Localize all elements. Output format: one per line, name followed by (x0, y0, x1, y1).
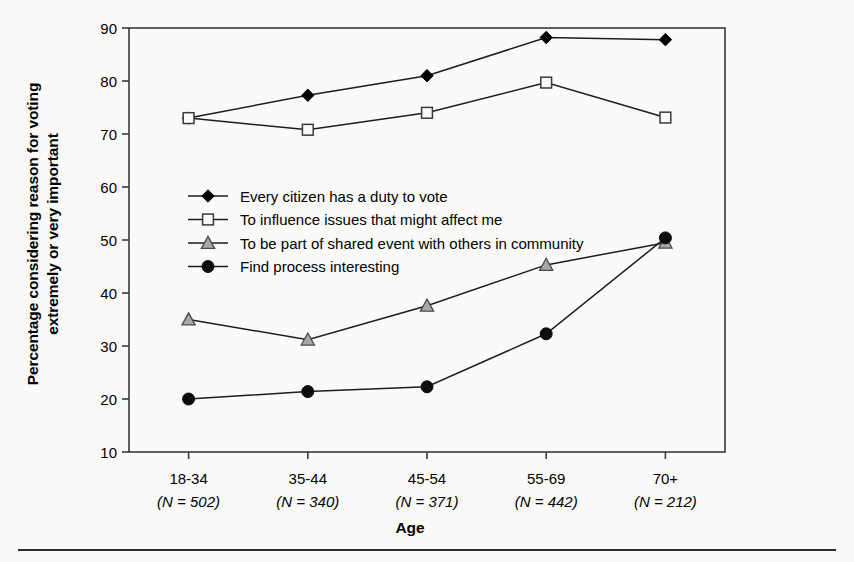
data-point-square (302, 124, 313, 135)
x-category-label: 45-54 (408, 470, 446, 487)
y-tick-label: 40 (100, 285, 117, 302)
x-axis-category-labels: 18-34(N = 502)35-44(N = 340)45-54(N = 37… (157, 470, 697, 510)
data-point-triangle (182, 313, 195, 325)
x-category-n-label: (N = 212) (634, 493, 697, 510)
x-axis-ticks (189, 452, 666, 459)
data-point-circle (421, 381, 433, 393)
y-tick-label: 20 (100, 391, 117, 408)
legend-label-1: To influence issues that might affect me (240, 211, 502, 228)
chart-legend: Every citizen has a duty to voteTo influ… (188, 188, 584, 276)
y-tick-label: 60 (100, 179, 117, 196)
data-point-square (541, 77, 552, 88)
data-point-square (660, 112, 671, 123)
x-category-n-label: (N = 502) (157, 493, 220, 510)
series-line-1 (189, 83, 666, 130)
y-tick-label: 50 (100, 232, 117, 249)
legend-label-2: To be part of shared event with others i… (240, 235, 584, 252)
x-category-n-label: (N = 442) (515, 493, 578, 510)
y-tick-label: 70 (100, 126, 117, 143)
data-point-triangle (420, 299, 433, 311)
data-point-diamond (421, 70, 433, 82)
bottom-divider-rule (18, 549, 836, 551)
data-point-diamond (202, 190, 214, 202)
data-point-circle (302, 386, 314, 398)
data-point-circle (540, 328, 552, 340)
data-point-square (422, 107, 433, 118)
legend-label-3: Find process interesting (240, 258, 399, 275)
figure-panel: Percentage considering reason for voting… (0, 0, 854, 562)
data-point-diamond (302, 89, 314, 101)
data-point-circle (183, 393, 195, 405)
y-tick-label: 10 (100, 444, 117, 461)
legend-label-0: Every citizen has a duty to vote (240, 188, 448, 205)
x-category-label: 70+ (653, 470, 679, 487)
x-category-label: 55-69 (527, 470, 565, 487)
data-point-circle (202, 261, 214, 273)
data-point-diamond (540, 31, 552, 43)
x-category-label: 35-44 (289, 470, 327, 487)
data-point-diamond (659, 33, 671, 45)
y-axis-ticks: 102030405060708090 (100, 20, 129, 461)
x-category-n-label: (N = 340) (276, 493, 339, 510)
x-category-label: 18-34 (169, 470, 207, 487)
data-point-circle (659, 232, 671, 244)
y-tick-label: 30 (100, 338, 117, 355)
data-point-square (183, 113, 194, 124)
data-point-square (203, 214, 214, 225)
y-tick-label: 90 (100, 20, 117, 37)
y-tick-label: 80 (100, 73, 117, 90)
x-category-n-label: (N = 371) (396, 493, 459, 510)
line-chart: 102030405060708090 18-34(N = 502)35-44(N… (0, 0, 854, 562)
